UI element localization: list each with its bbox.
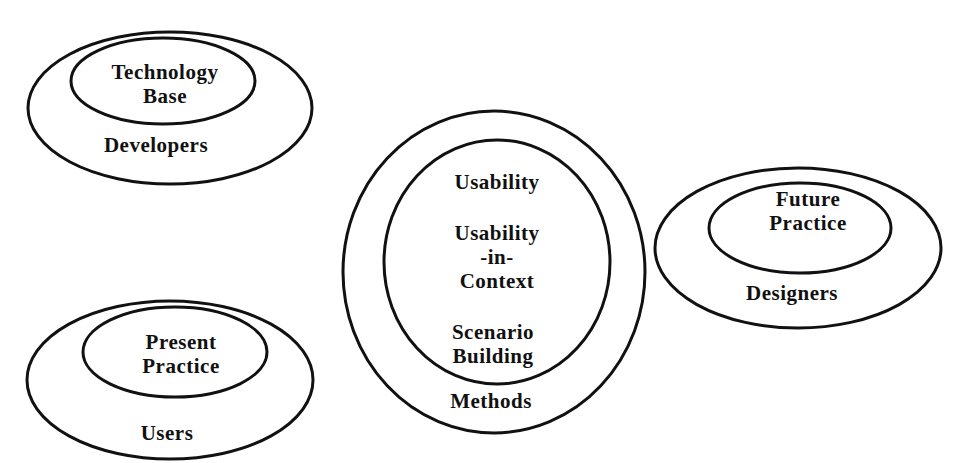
present-practice-line-2: Practice xyxy=(142,354,219,378)
usability-label: Usability xyxy=(454,170,539,194)
present-practice-line-1: Present xyxy=(142,330,219,354)
technology-base-line-1: Technology xyxy=(112,60,219,84)
usability-in-context-line-1: Usability xyxy=(454,221,539,245)
present-practice-label: Present Practice xyxy=(142,330,219,378)
future-practice-line-1: Future xyxy=(769,187,846,211)
users-label: Users xyxy=(141,421,194,445)
designers-label: Designers xyxy=(746,281,838,305)
developers-outer-ellipse xyxy=(28,32,312,184)
usability-in-context-line-2: -in- xyxy=(454,245,539,269)
usability-in-context-label: Usability -in- Context xyxy=(454,221,539,293)
usability-in-context-line-3: Context xyxy=(454,269,539,293)
developers-label: Developers xyxy=(104,133,208,157)
future-practice-line-2: Practice xyxy=(769,211,846,235)
technology-base-label: Technology Base xyxy=(112,60,219,108)
future-practice-label: Future Practice xyxy=(769,187,846,235)
methods-label: Methods xyxy=(450,389,532,413)
scenario-building-line-1: Scenario xyxy=(452,320,534,344)
scenario-building-line-2: Building xyxy=(452,344,534,368)
technology-base-line-2: Base xyxy=(112,84,219,108)
scenario-building-label: Scenario Building xyxy=(452,320,534,368)
